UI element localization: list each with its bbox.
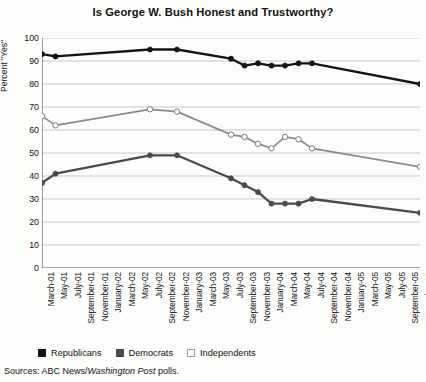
x-tick-label: September-05	[410, 272, 420, 323]
x-tick-label: May-04	[302, 272, 312, 299]
x-tick-label: September-01	[86, 272, 96, 323]
data-point	[309, 146, 314, 151]
data-point	[42, 114, 45, 119]
x-tick-label: November-01	[100, 272, 110, 321]
x-tick-label: July-02	[154, 272, 164, 298]
data-point	[282, 63, 287, 68]
chart-page: Is George W. Bush Honest and Trustworthy…	[0, 0, 426, 382]
x-tick-label: July-04	[316, 272, 326, 298]
data-point	[53, 123, 58, 128]
y-tick-label: 80	[3, 79, 39, 89]
plot-area	[42, 38, 420, 268]
x-tick-label: January-04	[275, 272, 285, 313]
data-point	[53, 171, 58, 176]
x-tick-label: July-01	[73, 272, 83, 298]
y-tick-label: 90	[3, 56, 39, 66]
data-point	[228, 132, 233, 137]
x-tick-label: January-05	[356, 272, 366, 313]
legend-swatch-rep	[38, 349, 46, 357]
legend: RepublicansDemocratsIndependents	[38, 348, 256, 358]
y-axis-ticks: 0102030405060708090100	[0, 38, 39, 268]
y-tick-label: 100	[3, 33, 39, 43]
x-tick-label: March-02	[127, 272, 137, 306]
x-tick-label: September-03	[248, 272, 258, 323]
y-tick-label: 50	[3, 148, 39, 158]
data-point	[242, 63, 247, 68]
x-tick-label: May-03	[221, 272, 231, 299]
data-point	[228, 176, 233, 181]
x-tick-label: November-02	[181, 272, 191, 321]
legend-label: Democrats	[129, 348, 173, 358]
x-tick-label: March-03	[208, 272, 218, 306]
x-tick-label: May-02	[140, 272, 150, 299]
data-point	[147, 153, 152, 158]
data-point	[417, 210, 420, 215]
data-point	[174, 47, 179, 52]
x-tick-label: September-04	[329, 272, 339, 323]
y-tick-label: 60	[3, 125, 39, 135]
x-tick-label: March-04	[289, 272, 299, 306]
sources-note: Sources: ABC News/Washington Post polls.	[4, 366, 179, 376]
data-point	[269, 63, 274, 68]
data-point	[255, 190, 260, 195]
data-point	[282, 134, 287, 139]
data-point	[174, 109, 179, 114]
data-point	[255, 61, 260, 66]
data-point	[269, 146, 274, 151]
sources-suffix: polls.	[155, 366, 179, 376]
y-tick-label: 40	[3, 171, 39, 181]
x-tick-label: May-05	[383, 272, 393, 299]
data-point	[417, 81, 420, 86]
x-tick-label: September-02	[167, 272, 177, 323]
series-line	[42, 109, 420, 167]
x-tick-label: May-01	[59, 272, 69, 299]
data-point	[309, 61, 314, 66]
data-point	[269, 201, 274, 206]
x-tick-label: November-03	[262, 272, 272, 321]
data-point	[42, 52, 45, 57]
data-point	[417, 164, 420, 169]
x-tick-label: March-01	[46, 272, 56, 306]
data-point	[296, 137, 301, 142]
data-point	[174, 153, 179, 158]
data-point	[147, 107, 152, 112]
data-point	[147, 47, 152, 52]
x-tick-label: July-05	[397, 272, 407, 298]
series-line	[42, 50, 420, 85]
y-tick-label: 20	[3, 217, 39, 227]
legend-item: Independents	[187, 348, 256, 358]
chart-svg	[42, 38, 420, 268]
data-point	[242, 183, 247, 188]
legend-swatch-ind	[187, 349, 195, 357]
data-point	[309, 196, 314, 201]
sources-prefix: Sources: ABC News/	[4, 366, 88, 376]
x-tick-label: November-04	[343, 272, 353, 321]
x-tick-label: January-03	[194, 272, 204, 313]
legend-label: Independents	[200, 348, 256, 358]
y-tick-label: 30	[3, 194, 39, 204]
data-point	[296, 201, 301, 206]
y-tick-label: 70	[3, 102, 39, 112]
data-point	[255, 141, 260, 146]
x-axis-ticks: March-01May-01July-01September-01Novembe…	[42, 272, 420, 344]
data-point	[42, 180, 45, 185]
x-tick-label: March-05	[370, 272, 380, 306]
legend-item: Democrats	[116, 348, 173, 358]
data-point	[53, 54, 58, 59]
x-tick-label: July-03	[235, 272, 245, 298]
data-point	[282, 201, 287, 206]
sources-publication: Washington Post	[88, 366, 156, 376]
y-tick-label: 10	[3, 240, 39, 250]
x-tick-label: January-02	[113, 272, 123, 313]
legend-item: Republicans	[38, 348, 102, 358]
data-point	[228, 56, 233, 61]
series-line	[42, 155, 420, 213]
page-title: Is George W. Bush Honest and Trustworthy…	[0, 6, 426, 18]
data-point	[296, 61, 301, 66]
data-point	[242, 134, 247, 139]
legend-label: Republicans	[51, 348, 102, 358]
y-tick-label: 0	[3, 263, 39, 273]
legend-swatch-dem	[116, 349, 124, 357]
